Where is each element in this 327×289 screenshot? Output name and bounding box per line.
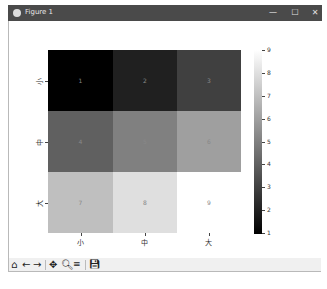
colorbar-tick-label: 6 [267,115,271,122]
toolbar-separator [85,260,86,270]
heatmap-cell: 2 [113,50,177,111]
x-tick-label: 中 [141,237,148,247]
colorbar-tick [262,119,265,120]
x-tick [81,233,82,236]
x-tick [145,233,146,236]
colorbar-tick [262,187,265,188]
app-icon [13,9,21,17]
maximize-button[interactable]: ☐ [288,7,302,19]
heatmap-cell: 4 [48,111,113,172]
minimize-button[interactable]: — [266,7,280,19]
colorbar-tick [262,73,265,74]
forward-arrow-icon[interactable]: → [33,258,41,271]
colorbar-tick [262,233,265,234]
colorbar-tick-label: 2 [267,206,271,213]
back-arrow-icon[interactable]: ← [22,258,30,271]
home-icon[interactable]: ⌂ [11,258,17,271]
x-tick-label: 大 [205,237,212,247]
subplots-icon[interactable]: ≡ [73,258,81,271]
y-tick [45,81,48,82]
colorbar-tick-label: 5 [267,138,271,145]
heatmap-cell: 6 [177,111,241,172]
colorbar-tick-label: 1 [267,229,271,236]
title-bar[interactable]: Figure 1 — ☐ ✕ [8,5,322,21]
pan-icon[interactable]: ✥ [49,258,57,271]
colorbar-tick-label: 3 [267,183,271,190]
y-tick-label: 大 [34,199,44,206]
colorbar-tick [262,96,265,97]
y-tick-label: 小 [34,77,44,84]
y-tick [45,142,48,143]
x-tick [209,233,210,236]
colorbar-tick [262,50,265,51]
toolbar-separator [45,260,46,270]
y-tick [45,203,48,204]
colorbar-tick [262,164,265,165]
colorbar-tick-label: 7 [267,92,271,99]
heatmap-cell: 1 [48,50,113,111]
heatmap-cell: 8 [113,172,177,233]
colorbar-tick [262,210,265,211]
colorbar-tick-label: 9 [267,46,271,53]
heatmap-cell: 3 [177,50,241,111]
colorbar [254,50,262,234]
y-tick-label: 中 [34,138,44,145]
close-button[interactable]: ✕ [308,7,322,19]
colorbar-tick [262,142,265,143]
heatmap-cell: 7 [48,172,113,233]
heatmap-cell: 9 [177,172,241,233]
x-tick-label: 小 [77,237,84,247]
colorbar-tick-label: 8 [267,69,271,76]
colorbar-tick-label: 4 [267,160,271,167]
heatmap-cell: 5 [113,111,177,172]
save-icon[interactable]: 💾︎ [89,258,100,271]
window-title: Figure 1 [25,8,53,16]
navigation-toolbar: ⌂ ← → ✥ 🔍︎ ≡ 💾︎ [9,258,321,271]
